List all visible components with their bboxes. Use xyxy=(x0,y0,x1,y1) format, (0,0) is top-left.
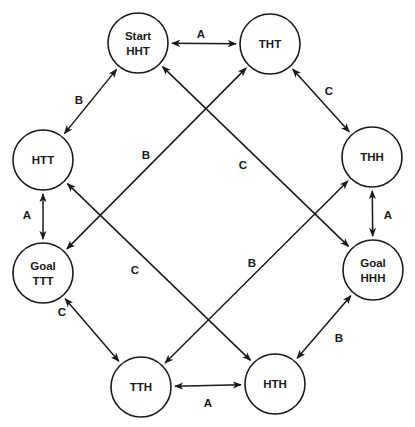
state-diagram: ABCAACBABCCB StartHHTTHTHTTTHHGoalTTTGoa… xyxy=(0,0,415,427)
edge-ttt-tth xyxy=(65,299,119,361)
state-circle xyxy=(343,240,403,300)
state-node-thh: THH xyxy=(342,127,402,187)
state-label: Goal xyxy=(30,260,56,272)
state-label: TTH xyxy=(130,381,152,393)
state-node-tth: TTH xyxy=(111,357,171,417)
edge-label: A xyxy=(197,28,205,40)
edge-label: A xyxy=(23,209,31,221)
state-node-hht: StartHHT xyxy=(108,13,168,73)
edge-tht-thh xyxy=(293,69,349,132)
nodes-layer: StartHHTTHTHTTTHHGoalTTTGoalHHHTTHHTH xyxy=(13,13,403,417)
edge-label: C xyxy=(325,85,333,97)
state-label: Start xyxy=(125,30,151,42)
state-circle xyxy=(13,243,73,303)
edge-tht-ttt xyxy=(67,68,246,249)
edge-hht-htt xyxy=(64,69,116,133)
edge-label: A xyxy=(204,397,212,409)
state-label: HTH xyxy=(263,378,287,390)
state-circle xyxy=(108,13,168,73)
state-label: HTT xyxy=(32,154,54,166)
state-label: TTT xyxy=(32,275,53,287)
state-node-hhh: GoalHHH xyxy=(343,240,403,300)
state-label: THT xyxy=(259,38,281,50)
edge-hhh-hth xyxy=(297,296,351,358)
state-label: Goal xyxy=(360,257,386,269)
state-node-tht: THT xyxy=(240,14,300,74)
state-node-htt: HTT xyxy=(13,130,73,190)
edge-label: C xyxy=(131,264,139,276)
state-label: THH xyxy=(360,151,384,163)
edge-label: B xyxy=(142,149,150,161)
edge-label: C xyxy=(58,306,66,318)
edge-hht-hhh xyxy=(162,67,348,247)
edge-thh-tth xyxy=(165,181,348,363)
edge-label: B xyxy=(335,332,343,344)
state-label: HHH xyxy=(361,272,386,284)
edge-label: B xyxy=(75,94,83,106)
edge-label: C xyxy=(239,159,247,171)
state-node-ttt: GoalTTT xyxy=(13,243,73,303)
state-node-hth: HTH xyxy=(245,354,305,414)
state-label: HHT xyxy=(126,45,150,57)
edge-tth-hth xyxy=(175,385,241,386)
edge-label: B xyxy=(248,257,256,269)
edges-layer: ABCAACBABCCB xyxy=(23,28,392,409)
edge-label: A xyxy=(384,209,392,221)
